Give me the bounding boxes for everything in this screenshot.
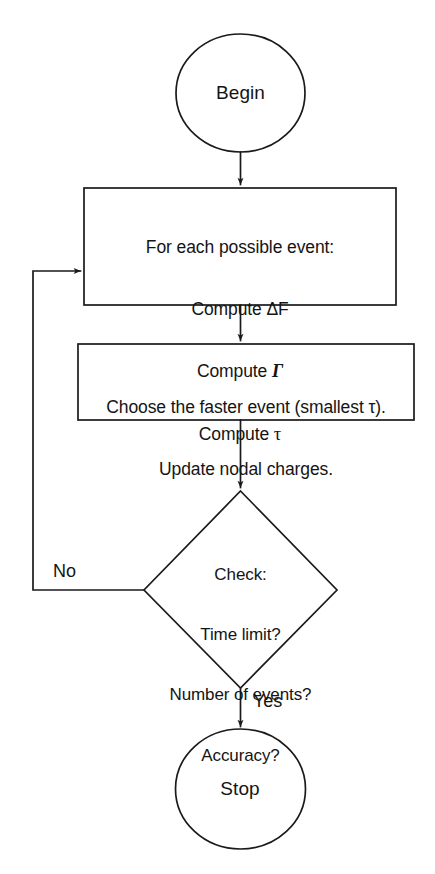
edge-label-yes: Yes (253, 691, 282, 712)
edge-label-no: No (53, 561, 76, 582)
node-stop-shape (176, 729, 306, 849)
node-check-shape (144, 491, 337, 688)
node-compute-shape (84, 188, 396, 305)
edge-check-to-compute-no (33, 271, 144, 590)
node-choose-shape (78, 344, 414, 420)
flowchart-canvas (0, 0, 435, 874)
node-begin-shape (176, 34, 305, 152)
